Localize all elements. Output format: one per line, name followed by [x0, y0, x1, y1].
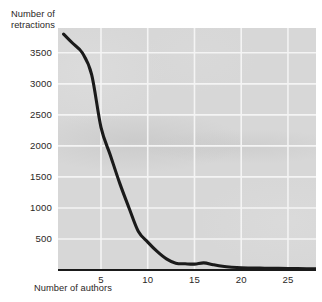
y-axis-title-line-1: Number of	[11, 9, 55, 19]
plot-area	[58, 28, 316, 270]
x-tick-label-20: 20	[228, 274, 254, 285]
x-axis-title: Number of authors	[34, 283, 112, 294]
retractions-line-chart: Number ofretractions 5001000150020002500…	[0, 0, 322, 302]
y-tick-label-1500: 1500	[12, 171, 52, 182]
y-tick-label-2500: 2500	[12, 109, 52, 120]
y-tick-label-3500: 3500	[12, 47, 52, 58]
y-tick-label-1000: 1000	[12, 202, 52, 213]
x-axis-rule	[58, 269, 316, 271]
x-tick-label-10: 10	[135, 274, 161, 285]
y-tick-label-500: 500	[12, 233, 52, 244]
y-tick-label-3000: 3000	[12, 78, 52, 89]
vertical-gridlines	[101, 28, 288, 270]
y-tick-label-2000: 2000	[12, 140, 52, 151]
y-axis-title-line-2: retractions	[11, 20, 55, 30]
x-tick-label-25: 25	[275, 274, 301, 285]
y-axis-title: Number ofretractions	[11, 9, 55, 32]
plot-svg	[58, 28, 316, 270]
horizontal-gridlines	[58, 53, 316, 239]
x-tick-label-15: 15	[182, 274, 208, 285]
